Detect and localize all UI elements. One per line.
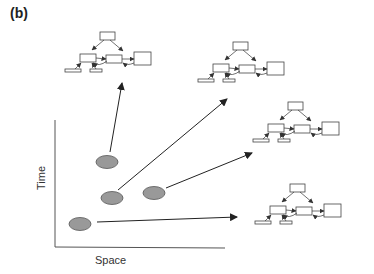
arrow-1 bbox=[110, 83, 122, 152]
network-diagram-4 bbox=[255, 184, 341, 224]
x-axis bbox=[55, 247, 225, 248]
x-axis-label: Space bbox=[95, 254, 126, 266]
arrow-4 bbox=[97, 217, 237, 222]
diagram-canvas: Time Space bbox=[0, 0, 374, 274]
network-diagram-1 bbox=[65, 32, 151, 72]
sample-ellipse-1 bbox=[96, 156, 118, 169]
network-diagram-2 bbox=[198, 42, 284, 82]
y-axis-label: Time bbox=[35, 166, 47, 190]
network-diagram-3 bbox=[253, 102, 339, 142]
arrow-3 bbox=[166, 153, 252, 188]
arrow-2 bbox=[118, 99, 227, 190]
sample-ellipse-3 bbox=[143, 187, 165, 200]
sample-ellipse-2 bbox=[101, 192, 123, 205]
sample-ellipse-4 bbox=[69, 218, 91, 231]
